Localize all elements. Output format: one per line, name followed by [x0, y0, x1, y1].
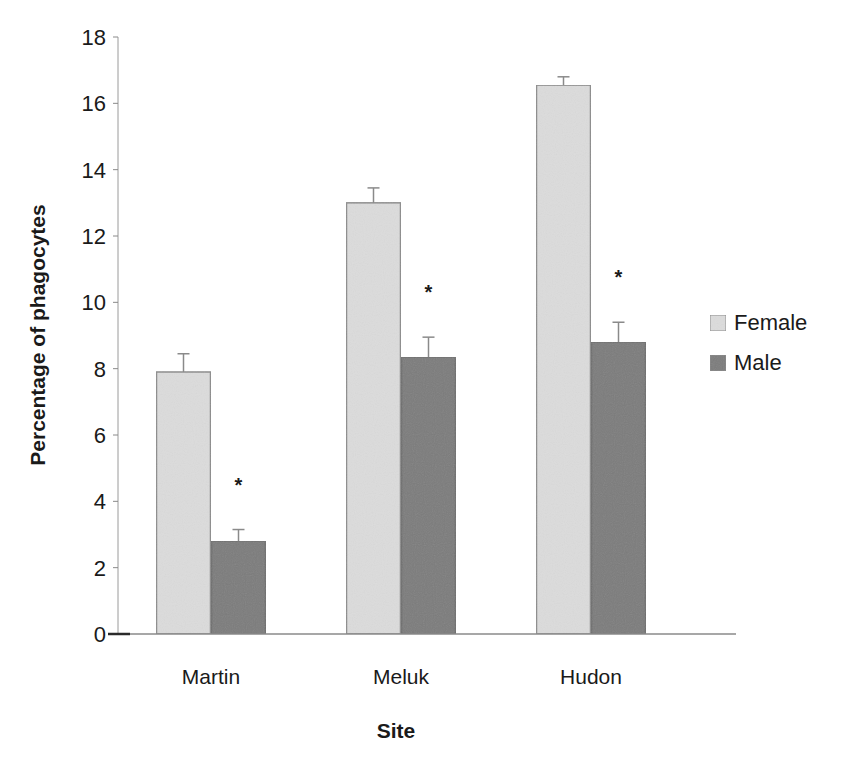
bar-female-martin [157, 372, 211, 634]
legend-label: Male [734, 350, 782, 375]
legend-swatch [710, 355, 726, 371]
y-tick-label: 14 [82, 158, 106, 183]
legend-label: Female [734, 310, 807, 335]
y-tick-label: 0 [94, 622, 106, 647]
x-tick-label-hudon: Hudon [560, 665, 622, 688]
bar-male-martin [212, 541, 266, 634]
bars-group: *** [157, 77, 646, 634]
chart-canvas: 024681012141618 Percentage of phagocytes… [0, 0, 847, 761]
y-axis-title: Percentage of phagocytes [26, 204, 49, 465]
legend: FemaleMale [710, 310, 807, 375]
x-tick-labels: MartinMelukHudon [182, 665, 622, 688]
y-tick-label: 12 [82, 224, 106, 249]
significance-asterisk: * [425, 281, 433, 303]
y-tick-label: 2 [94, 556, 106, 581]
y-tick-label: 16 [82, 91, 106, 116]
y-axis: 024681012141618 [82, 25, 118, 647]
y-tick-label: 8 [94, 357, 106, 382]
legend-item-male: Male [710, 350, 782, 375]
bar-male-meluk [402, 357, 456, 634]
x-tick-label-meluk: Meluk [373, 665, 430, 688]
bar-female-meluk [347, 203, 401, 634]
legend-item-female: Female [710, 310, 807, 335]
y-tick-label: 6 [94, 423, 106, 448]
bar-group-meluk [347, 188, 456, 634]
bar-male-hudon [592, 342, 646, 634]
significance-asterisk: * [615, 266, 623, 288]
bar-group-hudon [537, 77, 646, 634]
y-tick-label: 18 [82, 25, 106, 50]
y-tick-label: 10 [82, 290, 106, 315]
significance-asterisk: * [235, 474, 243, 496]
x-tick-label-martin: Martin [182, 665, 240, 688]
x-axis-title: Site [377, 719, 416, 742]
bar-female-hudon [537, 85, 591, 634]
bar-group-martin [157, 354, 266, 634]
bar-chart: 024681012141618 Percentage of phagocytes… [0, 0, 847, 761]
y-tick-label: 4 [94, 489, 106, 514]
legend-swatch [710, 315, 726, 331]
